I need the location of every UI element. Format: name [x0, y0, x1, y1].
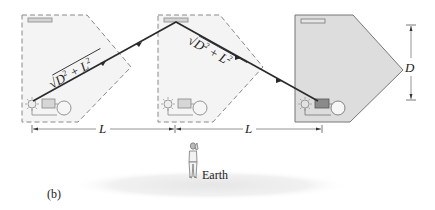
svg-text:L: L: [244, 121, 252, 136]
mirror-top-3: [301, 19, 325, 23]
detector-2: [178, 99, 191, 108]
dimension-L-right: L: [176, 121, 322, 136]
panel-label: (b): [47, 187, 61, 201]
detector-1: [42, 99, 55, 108]
clock-dial-3: [331, 101, 345, 115]
clock-dial-1: [57, 101, 71, 115]
svg-text:L: L: [98, 121, 106, 136]
svg-text:D: D: [404, 60, 415, 75]
diagram-canvas: √D2 + L2 √D2 + L2 L L D: [0, 0, 435, 210]
observer-person-icon: [189, 143, 198, 178]
clock-dial-2: [193, 101, 207, 115]
light-clock-diagram: √D2 + L2 √D2 + L2 L L D: [0, 0, 435, 210]
dimension-D: D: [404, 25, 416, 100]
mirror-top-1: [28, 18, 52, 22]
dimension-L-left: L: [32, 121, 174, 136]
light-clock-ghost-2: [158, 15, 263, 122]
light-clock-current: [295, 15, 403, 122]
earth-label: Earth: [202, 168, 228, 182]
